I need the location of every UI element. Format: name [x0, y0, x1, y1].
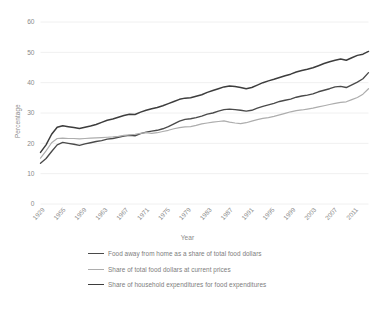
x-tick-label-1999: 1999	[282, 206, 297, 222]
x-tick-label-1959: 1959	[73, 206, 88, 222]
x-tick-1959: 1959	[73, 206, 88, 222]
x-tick-label-1929: 1929	[31, 206, 46, 222]
x-tick-label-1995: 1995	[261, 206, 276, 222]
legend-item-2[interactable]: Share of household expenditures for food…	[0, 277, 375, 293]
x-tick-label-1955: 1955	[52, 206, 67, 222]
y-tick-label-20: 20	[27, 140, 35, 147]
legend-swatch-1	[88, 269, 104, 270]
x-tick-1971: 1971	[136, 206, 151, 222]
x-tick-1967: 1967	[115, 206, 130, 222]
x-tick-label-1971: 1971	[136, 206, 151, 222]
y-tick-label-40: 40	[27, 79, 35, 86]
x-tick-label-1979: 1979	[177, 206, 192, 222]
x-tick-1987: 1987	[219, 206, 234, 222]
series-line-0	[41, 73, 369, 164]
x-tick-label-1963: 1963	[94, 206, 109, 222]
x-tick-1955: 1955	[52, 206, 67, 222]
x-tick-1999: 1999	[282, 206, 297, 222]
x-tick-label-1983: 1983	[198, 206, 213, 222]
x-tick-label-2003: 2003	[303, 206, 318, 222]
y-tick-label-30: 30	[27, 109, 35, 116]
chart-figure: 0102030405060192919551959196319671971197…	[0, 0, 375, 309]
y-axis-title-wrap: Percentage	[2, 80, 16, 140]
series-line-1	[41, 89, 369, 158]
y-tick-label-0: 0	[31, 200, 35, 207]
legend-item-1[interactable]: Share of total food dollars at current p…	[0, 262, 375, 278]
x-tick-2007: 2007	[324, 206, 339, 222]
x-tick-1975: 1975	[156, 206, 171, 222]
x-tick-label-1987: 1987	[219, 206, 234, 222]
y-tick-label-50: 50	[27, 49, 35, 56]
x-tick-1983: 1983	[198, 206, 213, 222]
x-tick-1991: 1991	[240, 206, 255, 222]
legend-label-0: Food away from home as a share of total …	[108, 250, 262, 257]
x-tick-1929: 1929	[31, 206, 46, 222]
chart-legend: Food away from home as a share of total …	[0, 246, 375, 293]
series-line-2	[41, 51, 369, 152]
legend-swatch-2	[88, 284, 104, 285]
y-tick-label-10: 10	[27, 170, 35, 177]
x-tick-1995: 1995	[261, 206, 276, 222]
x-tick-label-2007: 2007	[324, 206, 339, 222]
x-tick-label-1975: 1975	[156, 206, 171, 222]
x-axis-title: Year	[0, 234, 375, 241]
x-tick-1979: 1979	[177, 206, 192, 222]
y-axis-title: Percentage	[14, 104, 21, 138]
y-tick-label-60: 60	[27, 18, 35, 25]
x-tick-2003: 2003	[303, 206, 318, 222]
legend-label-2: Share of household expenditures for food…	[108, 281, 266, 288]
x-tick-label-1991: 1991	[240, 206, 255, 222]
legend-item-0[interactable]: Food away from home as a share of total …	[0, 246, 375, 262]
x-tick-label-2011: 2011	[345, 206, 360, 221]
legend-label-1: Share of total food dollars at current p…	[108, 266, 231, 273]
x-tick-label-1967: 1967	[115, 206, 130, 222]
legend-swatch-0	[88, 253, 104, 254]
x-tick-1963: 1963	[94, 206, 109, 222]
x-tick-2011: 2011	[345, 206, 360, 221]
